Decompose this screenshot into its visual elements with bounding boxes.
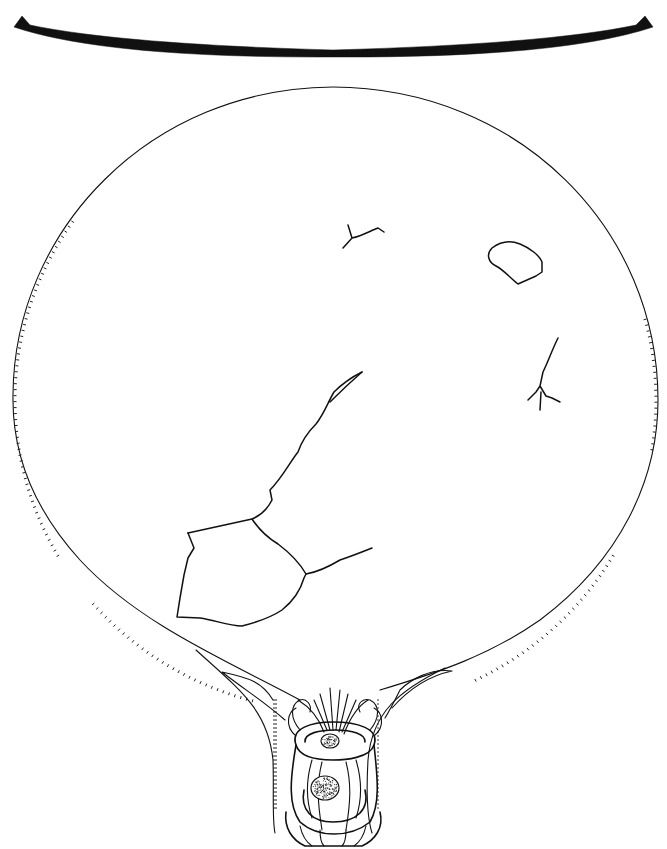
ornament-coil xyxy=(286,812,381,846)
granulated-boss xyxy=(311,776,339,800)
rim-tick-marks xyxy=(14,221,658,702)
crack-upper-loop xyxy=(489,242,542,284)
ornament-plume xyxy=(344,700,368,734)
crack-large-fragment-loop xyxy=(177,519,306,626)
handle-right-edge xyxy=(367,668,445,833)
mirror-drawing xyxy=(0,0,667,849)
crack-upper-small xyxy=(343,225,384,248)
handle-left-flange xyxy=(222,672,285,720)
mirror-section-profile xyxy=(14,16,653,57)
figure-canvas: Mirror line drawing xyxy=(0,0,667,849)
ornament-plume xyxy=(298,700,324,732)
handle-left-edge xyxy=(196,650,275,833)
crack-faint-left xyxy=(330,372,362,402)
ornament-plume xyxy=(330,688,333,730)
ornament-plume xyxy=(336,690,340,730)
crack-right-vertical xyxy=(528,338,560,410)
ornament-plume xyxy=(314,700,327,730)
ornament-plume xyxy=(342,700,356,732)
granulated-boss xyxy=(321,734,339,748)
mirror-disc-outline xyxy=(13,87,658,700)
surface-cracks xyxy=(177,225,560,626)
crack-right-branch xyxy=(306,548,372,574)
ornament-rib xyxy=(356,760,361,818)
